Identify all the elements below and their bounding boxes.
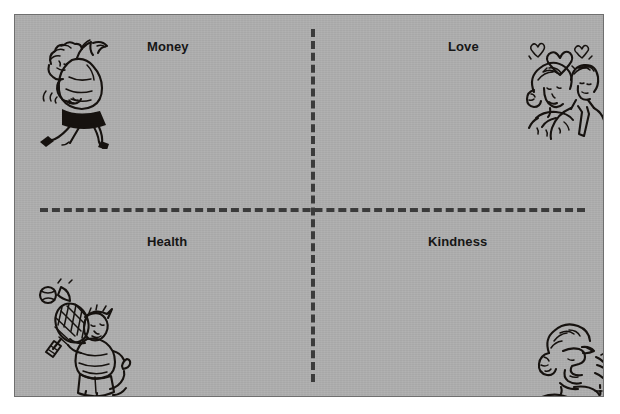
quadrant-label-kindness: Kindness: [428, 234, 487, 249]
elderly-woman-portrait-icon: [527, 317, 604, 397]
running-person-with-money-bag-icon: [35, 31, 121, 149]
quadrant-frame: Money Love Health Kindness: [14, 14, 604, 397]
couple-embracing-with-hearts-icon: [516, 36, 604, 140]
tennis-player-icon: [31, 277, 135, 397]
vertical-divider: [311, 29, 315, 382]
quadrant-label-money: Money: [147, 39, 189, 54]
quadrant-label-love: Love: [448, 39, 479, 54]
quadrant-label-health: Health: [147, 234, 187, 249]
quadrant-diagram-canvas: Money Love Health Kindness: [0, 0, 620, 414]
